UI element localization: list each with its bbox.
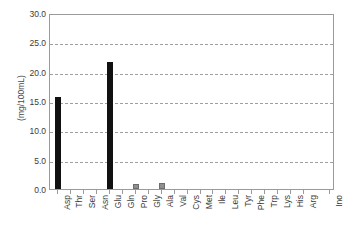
x-tick (187, 190, 188, 194)
x-tick-label: Ile (217, 195, 227, 231)
x-tick-label: Pro (139, 195, 149, 231)
x-tick-label: Leu (230, 195, 240, 231)
x-tick-label: Lys (282, 195, 292, 231)
x-tick (264, 190, 265, 194)
x-tick (238, 190, 239, 194)
x-tick-label: Arg (308, 195, 318, 231)
x-tick (329, 190, 330, 194)
x-tick-label: Glu (113, 195, 123, 231)
amino-acid-bar-chart: (mg/100mL) 0.05.010.015.020.025.030.0 As… (0, 0, 348, 232)
x-tick (212, 190, 213, 194)
x-tick (161, 190, 162, 194)
x-tick (70, 190, 71, 194)
x-tick-label: Thr (74, 195, 84, 231)
y-tick-label: 25.0 (16, 39, 46, 47)
x-tick-label: Ino (334, 195, 344, 231)
y-axis-tick-labels: 0.05.010.015.020.025.030.0 (16, 14, 46, 190)
x-tick-label: Ser (87, 195, 97, 231)
x-tick (303, 190, 304, 194)
x-tick-label: Gln (126, 195, 136, 231)
x-tick (96, 190, 97, 194)
plot-area (49, 14, 334, 190)
x-tick (57, 190, 58, 194)
x-tick (109, 190, 110, 194)
x-tick-label: Gly (152, 195, 162, 231)
x-tick (174, 190, 175, 194)
x-tick (135, 190, 136, 194)
x-tick (251, 190, 252, 194)
x-tick (148, 190, 149, 194)
x-tick (225, 190, 226, 194)
x-tick-label: Cys (191, 195, 201, 231)
y-tick-label: 0.0 (16, 186, 46, 194)
y-tick-label: 15.0 (16, 98, 46, 106)
y-tick-label: 30.0 (16, 10, 46, 18)
x-tick-label: Phe (256, 195, 266, 231)
x-tick-label: Trp (269, 195, 279, 231)
x-tick-label: Tyr (243, 195, 253, 231)
x-tick (122, 190, 123, 194)
x-tick-label: Asp (62, 195, 72, 231)
x-tick-label: His (295, 195, 305, 231)
x-tick (277, 190, 278, 194)
bar (133, 184, 139, 189)
y-tick-label: 20.0 (16, 69, 46, 77)
x-tick-label: Met (204, 195, 214, 231)
x-axis-ticks (49, 190, 334, 194)
bar (107, 62, 113, 189)
x-tick (83, 190, 84, 194)
x-tick (290, 190, 291, 194)
y-tick-label: 5.0 (16, 157, 46, 165)
x-tick (200, 190, 201, 194)
bar-series (50, 15, 333, 189)
x-tick-label: Val (178, 195, 188, 231)
y-tick-label: 10.0 (16, 127, 46, 135)
bar (55, 97, 61, 189)
x-tick-label: Asn (100, 195, 110, 231)
x-tick-label: Ala (165, 195, 175, 231)
bar (159, 183, 165, 189)
x-axis-tick-labels: AspThrSerAsnGluGlnProGlyAlaValCysMetIleL… (49, 195, 334, 232)
